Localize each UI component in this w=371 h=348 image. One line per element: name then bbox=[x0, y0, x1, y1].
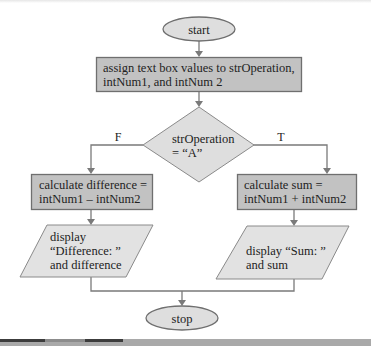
true-branch-label: T bbox=[277, 130, 285, 144]
arrowhead-icon bbox=[323, 168, 331, 174]
stop-label: stop bbox=[172, 312, 193, 326]
display-sum-line-2: and sum bbox=[246, 258, 288, 272]
bottom-rule-dark-segment bbox=[0, 339, 45, 342]
node-start: start bbox=[163, 17, 235, 41]
flowchart: start assign text box values to strOpera… bbox=[0, 0, 371, 348]
calc-difference-line-1: calculate difference = bbox=[39, 178, 147, 192]
arrowhead-icon bbox=[290, 220, 298, 226]
display-difference-line-1: display bbox=[50, 230, 87, 244]
calc-sum-line-2: intNum1 + intNum2 bbox=[244, 192, 346, 206]
assign-label-line-1: assign text box values to strOperation, bbox=[103, 61, 295, 75]
calc-sum-line-1: calculate sum = bbox=[244, 178, 323, 192]
node-display-difference: display “Difference: ” and difference bbox=[20, 225, 153, 277]
decision-label-line-1: strOperation bbox=[172, 132, 235, 146]
display-difference-line-2: “Difference: ” bbox=[50, 244, 121, 258]
node-stop: stop bbox=[146, 306, 218, 330]
node-assign: assign text box values to strOperation, … bbox=[97, 58, 302, 92]
bottom-rule-dark-segment bbox=[85, 339, 123, 342]
node-display-sum: display “Sum: ” and sum bbox=[216, 226, 349, 279]
assign-label-line-2: intNum1, and intNum 2 bbox=[103, 75, 222, 89]
node-calc-sum: calculate sum = intNum1 + intNum2 bbox=[238, 175, 357, 210]
bottom-rule bbox=[0, 339, 371, 346]
arrowhead-icon bbox=[195, 101, 203, 107]
calc-difference-line-2: intNum1 – intNum2 bbox=[39, 192, 140, 206]
arrowhead-icon bbox=[87, 219, 95, 225]
node-calc-difference: calculate difference = intNum1 – intNum2 bbox=[32, 175, 153, 210]
display-difference-line-3: and difference bbox=[50, 258, 122, 272]
display-sum-line-1: display “Sum: ” bbox=[246, 244, 326, 258]
edge-decision-false bbox=[91, 145, 143, 169]
false-branch-label: F bbox=[115, 130, 122, 144]
arrowhead-icon bbox=[195, 51, 203, 57]
arrowhead-icon bbox=[178, 300, 186, 306]
arrowhead-icon bbox=[87, 168, 95, 174]
start-label: start bbox=[188, 23, 210, 37]
edge-decision-true bbox=[253, 145, 327, 169]
bottom-rule-mid-segment bbox=[45, 339, 85, 342]
decision-label-line-2: = “A” bbox=[172, 146, 202, 160]
node-decision: strOperation = “A” bbox=[143, 107, 254, 182]
